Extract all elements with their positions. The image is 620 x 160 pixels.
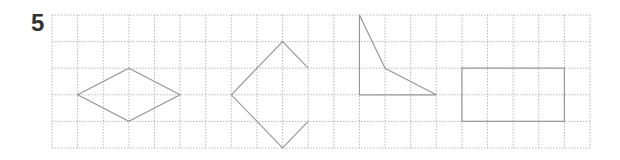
shape-open-diamond	[231, 42, 308, 148]
dotted-grid	[0, 0, 620, 160]
shape-quadrilateral	[359, 15, 436, 95]
